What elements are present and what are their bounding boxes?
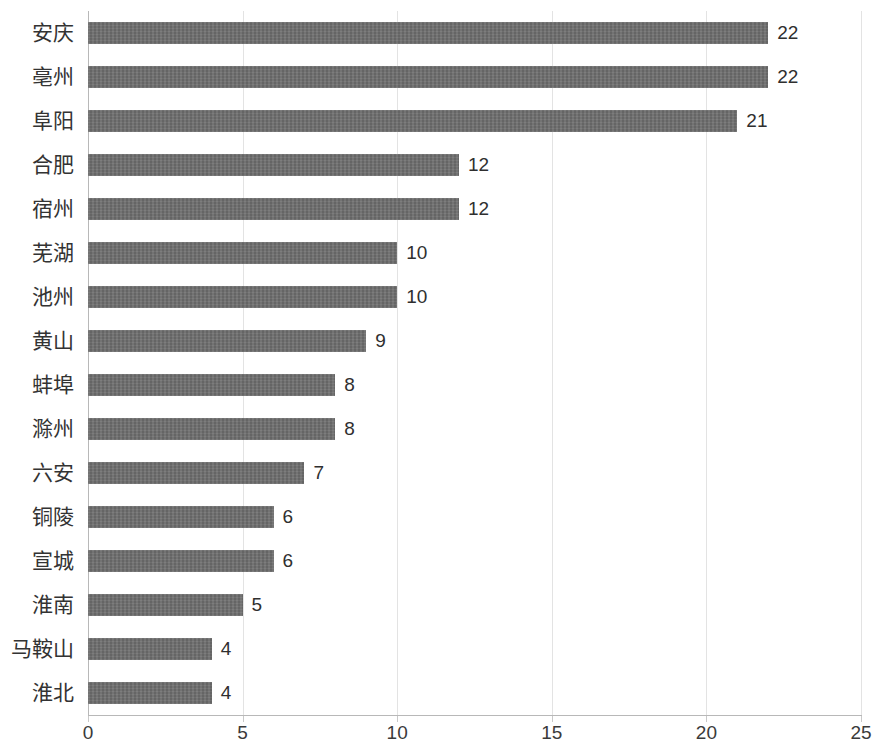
bar-row: 阜阳21 [88,99,861,143]
bar-fill [88,242,397,264]
x-axis-tick-label: 20 [696,722,717,744]
bar-row: 安庆22 [88,11,861,55]
bar-value-label: 6 [283,550,294,572]
bar-fill [88,198,459,220]
bar-fill [88,286,397,308]
bar-row: 池州10 [88,275,861,319]
bar-chart: 安庆22亳州22阜阳21合肥12宿州12芜湖10池州10黄山9蚌埠8滁州8六安7… [0,0,875,750]
bar-value-label: 10 [406,242,427,264]
bar-fill [88,638,212,660]
category-label: 合肥 [32,143,74,187]
bar: 10 [88,286,397,308]
bar: 10 [88,242,397,264]
bar-row: 铜陵6 [88,495,861,539]
bar-value-label: 5 [252,594,263,616]
bar-value-label: 9 [375,330,386,352]
bar-row: 宿州12 [88,187,861,231]
bar-row: 黄山9 [88,319,861,363]
category-label: 淮南 [32,583,74,627]
category-label: 马鞍山 [11,627,74,671]
gridline-x-25 [861,11,862,715]
bar-row: 淮北4 [88,671,861,715]
bar-fill [88,330,366,352]
bar-value-label: 7 [313,462,324,484]
bar-value-label: 22 [777,22,798,44]
bar-row: 宣城6 [88,539,861,583]
bar: 7 [88,462,304,484]
bar-row: 滁州8 [88,407,861,451]
bar: 12 [88,198,459,220]
bar-value-label: 22 [777,66,798,88]
category-label: 池州 [32,275,74,319]
bar-value-label: 8 [344,374,355,396]
category-label: 蚌埠 [32,363,74,407]
category-label: 宿州 [32,187,74,231]
bar-row: 淮南5 [88,583,861,627]
bar-fill [88,418,335,440]
plot-area: 安庆22亳州22阜阳21合肥12宿州12芜湖10池州10黄山9蚌埠8滁州8六安7… [88,11,861,715]
category-label: 淮北 [32,671,74,715]
bar: 5 [88,594,243,616]
bar-row: 马鞍山4 [88,627,861,671]
category-label: 黄山 [32,319,74,363]
bar-fill [88,66,768,88]
bar-row: 芜湖10 [88,231,861,275]
x-axis-tick-label: 0 [83,722,94,744]
bar: 21 [88,110,737,132]
bar: 4 [88,638,212,660]
bar: 12 [88,154,459,176]
bar-fill [88,506,274,528]
bar-fill [88,462,304,484]
bar: 6 [88,506,274,528]
x-axis-tick-label: 5 [237,722,248,744]
category-label: 宣城 [32,539,74,583]
bar-value-label: 12 [468,154,489,176]
bar-value-label: 21 [746,110,767,132]
bar-value-label: 6 [283,506,294,528]
bar-value-label: 10 [406,286,427,308]
category-label: 六安 [32,451,74,495]
x-axis-tick-label: 15 [541,722,562,744]
bar-row: 亳州22 [88,55,861,99]
bar: 8 [88,418,335,440]
bar: 6 [88,550,274,572]
bar-value-label: 4 [221,682,232,704]
bar: 9 [88,330,366,352]
x-axis-line [88,715,862,716]
x-axis-tick-label: 10 [387,722,408,744]
category-label: 铜陵 [32,495,74,539]
bar-fill [88,110,737,132]
bar: 22 [88,66,768,88]
bar-fill [88,550,274,572]
bar-row: 六安7 [88,451,861,495]
bar-fill [88,682,212,704]
bar-fill [88,594,243,616]
bar-fill [88,22,768,44]
category-label: 亳州 [32,55,74,99]
bar-value-label: 4 [221,638,232,660]
bar-fill [88,154,459,176]
x-axis-tick-label: 25 [850,722,871,744]
bar-fill [88,374,335,396]
category-label: 阜阳 [32,99,74,143]
category-label: 安庆 [32,11,74,55]
bar-value-label: 12 [468,198,489,220]
bar: 8 [88,374,335,396]
bar: 22 [88,22,768,44]
bar: 4 [88,682,212,704]
bar-row: 合肥12 [88,143,861,187]
bar-row: 蚌埠8 [88,363,861,407]
category-label: 芜湖 [32,231,74,275]
category-label: 滁州 [32,407,74,451]
bar-value-label: 8 [344,418,355,440]
